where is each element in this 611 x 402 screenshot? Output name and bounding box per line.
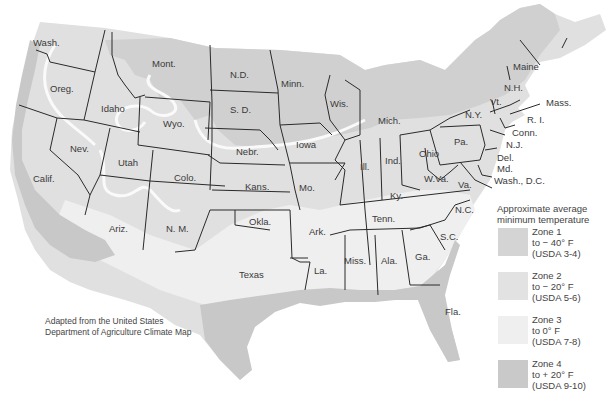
state-label: N.C. bbox=[455, 204, 474, 215]
state-label: Idaho bbox=[101, 103, 125, 114]
state-label: Vt. bbox=[490, 96, 502, 107]
zone-2-swatch bbox=[498, 272, 528, 300]
state-label: Ill. bbox=[360, 161, 370, 172]
state-label: Nev. bbox=[70, 143, 89, 154]
state-label: N.J. bbox=[506, 139, 523, 150]
state-label: Calif. bbox=[33, 173, 55, 184]
state-label: Va. bbox=[458, 179, 472, 190]
legend-title: Approximate average minimum temperature bbox=[497, 203, 589, 225]
zone-1-swatch bbox=[498, 228, 528, 256]
state-label: R. I. bbox=[527, 114, 544, 125]
legend-item-zone-4: Zone 4 to + 20° F (USDA 9-10) bbox=[498, 358, 611, 402]
state-label: Ohio bbox=[419, 148, 439, 159]
state-label: N.Y. bbox=[465, 109, 482, 120]
state-label: Minn. bbox=[281, 78, 304, 89]
state-label: Ind. bbox=[385, 155, 401, 166]
state-label: Tenn. bbox=[372, 213, 395, 224]
state-label: Mass. bbox=[546, 97, 571, 108]
state-label: Del. bbox=[497, 152, 514, 163]
zone-3-swatch bbox=[498, 316, 528, 344]
state-label: S.C. bbox=[440, 231, 458, 242]
state-label: Ala. bbox=[381, 255, 397, 266]
state-label: Wis. bbox=[330, 98, 348, 109]
state-label: N. M. bbox=[166, 223, 189, 234]
state-label: Maine bbox=[513, 61, 539, 72]
state-label: Ariz. bbox=[109, 223, 128, 234]
state-label: Kans. bbox=[245, 181, 269, 192]
state-label: Ga. bbox=[415, 251, 430, 262]
legend-item-zone-2: Zone 2 to − 20° F (USDA 5-6) bbox=[498, 270, 611, 318]
state-label: Texas bbox=[239, 269, 264, 280]
state-label: Md. bbox=[497, 163, 513, 174]
state-label: W.Va. bbox=[424, 173, 449, 184]
state-label: Ark. bbox=[309, 226, 326, 237]
state-label: Miss. bbox=[344, 255, 366, 266]
credit-line-2: Department of Agriculture Climate Map bbox=[45, 327, 191, 338]
state-label: N.H. bbox=[504, 82, 523, 93]
state-label: Colo. bbox=[174, 172, 196, 183]
legend-item-zone-1: Zone 1 to − 40° F (USDA 3-4) bbox=[498, 226, 611, 274]
zone-4-swatch bbox=[498, 360, 528, 388]
state-label: Wash. bbox=[33, 37, 60, 48]
state-label: Nebr. bbox=[236, 146, 259, 157]
map-credit: Adapted from the United States Departmen… bbox=[45, 316, 191, 338]
state-label: Okla. bbox=[249, 216, 271, 227]
state-label: N.D. bbox=[230, 69, 249, 80]
state-label: Ky. bbox=[390, 190, 403, 201]
state-label: Utah bbox=[118, 157, 138, 168]
state-label: Wash., D.C. bbox=[494, 175, 545, 186]
state-label: Fla. bbox=[445, 306, 461, 317]
state-label: Oreg. bbox=[50, 83, 74, 94]
state-label: Mo. bbox=[299, 182, 315, 193]
state-label: La. bbox=[314, 265, 327, 276]
state-label: Iowa bbox=[296, 139, 317, 150]
state-label: Pa. bbox=[454, 136, 468, 147]
credit-line-1: Adapted from the United States bbox=[45, 316, 191, 327]
state-label: S. D. bbox=[230, 104, 251, 115]
state-label: Mich. bbox=[378, 115, 401, 126]
legend-item-zone-3: Zone 3 to 0° F (USDA 7-8) bbox=[498, 314, 611, 362]
state-label: Conn. bbox=[512, 127, 537, 138]
state-label: Mont. bbox=[152, 58, 176, 69]
state-label: Wyo. bbox=[163, 118, 185, 129]
